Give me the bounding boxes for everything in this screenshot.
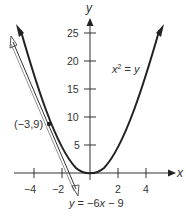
- y-tick-label: 25: [67, 27, 79, 39]
- y-axis-label: y: [85, 1, 93, 15]
- y-tick-label: 10: [67, 111, 79, 123]
- y-tick-label: 20: [67, 55, 79, 67]
- x-tick-labels: −4 −2 2 4: [24, 183, 149, 195]
- line-label: y = −6x − 9: [68, 197, 124, 209]
- y-tick-label: 15: [67, 83, 79, 95]
- y-tick-labels: 25 20 15 10 5: [67, 27, 80, 151]
- tangent-point-label: (−3,9): [14, 118, 43, 130]
- tangent-line-graph: x y −4 −2 2 4 25 20 15 10 5: [0, 0, 186, 217]
- parabola-label: x2 = y: [111, 63, 141, 75]
- x-tick-label: −2: [52, 183, 64, 195]
- x-tick-label: 4: [143, 183, 149, 195]
- x-tick-label: 2: [115, 183, 121, 195]
- tangent-point-marker: [47, 122, 51, 126]
- x-axis-label: x: [176, 166, 184, 180]
- y-tick-label: 5: [74, 139, 80, 151]
- x-tick-label: −4: [24, 183, 36, 195]
